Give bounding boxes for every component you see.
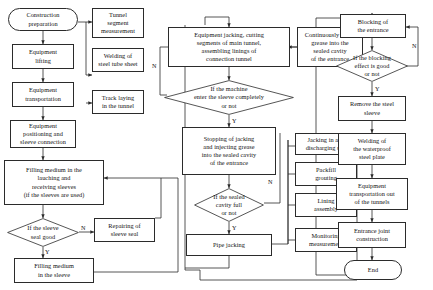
node-label: End	[368, 266, 378, 274]
node-pipe-jacking[interactable]: Pipe jacking	[186, 234, 272, 256]
node-label: Remove the steel sleeve	[350, 100, 394, 116]
node-label: If the machine enter the sleeve complete…	[194, 85, 264, 109]
node-equipment-positioning[interactable]: Equipment positioning and sleeve connect…	[10, 120, 76, 148]
edge-label-blocking-no: N	[412, 42, 416, 49]
node-filling-medium-launching[interactable]: Filling medium in the lauching and recei…	[4, 160, 104, 205]
node-label: Construction preparation	[26, 11, 59, 27]
edge-label-sleeve-seal-no: N	[81, 224, 85, 231]
node-tunnel-segment-measurement[interactable]: Tunnel segment measurement	[92, 8, 144, 38]
edge-label-sleeve-seal-yes: Y	[45, 248, 49, 255]
node-repairing-sleeve-seal[interactable]: Repairing of sleeve seal	[94, 218, 155, 242]
node-entrance-joint-construction[interactable]: Entrance joint construction	[338, 222, 406, 248]
node-label: Packfill grouting	[315, 166, 337, 182]
node-label: Welding of steel tube sheet	[98, 52, 137, 68]
node-filling-medium-in-sleeve[interactable]: Filling medium in the sleeve	[14, 258, 94, 283]
node-blocking-of-entrance[interactable]: Blocking of the entrance	[340, 14, 406, 38]
node-label: Blocking of the entrance	[357, 18, 388, 34]
node-label: If the sealed cavity full or not	[213, 193, 244, 217]
node-label: Filling medium in the lauching and recei…	[24, 166, 85, 198]
node-label: Pipe jacking	[213, 241, 245, 249]
node-end[interactable]: End	[344, 260, 402, 280]
edge-label-machine-enter-yes: Y	[232, 117, 236, 124]
node-equipment-transportation[interactable]: Equipment transportation	[12, 82, 74, 107]
node-label: Equipment transportation	[25, 86, 61, 102]
node-label: Entrance joint construction	[354, 227, 390, 243]
node-label: Lining assembly	[314, 197, 338, 213]
node-label: Equipment positioning and sleeve connect…	[20, 122, 66, 146]
node-stopping-of-jacking[interactable]: Stopping of jacking and injecting grease…	[182, 127, 276, 175]
edge-label-machine-enter-no: N	[152, 62, 156, 69]
node-construction-preparation[interactable]: Construction preparation	[8, 8, 78, 31]
node-label: Filling medium in the sleeve	[34, 262, 74, 278]
edge-label-sealed-cavity-yes: Y	[232, 224, 236, 231]
edge-label-sealed-cavity-no: N	[268, 178, 272, 185]
node-welding-steel-tube-sheet[interactable]: Welding of steel tube sheet	[92, 48, 144, 72]
node-equipment-transport-out[interactable]: Equipment transportation out of the tunn…	[336, 178, 408, 210]
node-remove-steel-sleeve[interactable]: Remove the steel sleeve	[338, 96, 406, 121]
node-if-machine-enter-sleeve[interactable]: If the machine enter the sleeve complete…	[164, 80, 294, 115]
node-track-laying-in-tunnel[interactable]: Track laying in the tunnel	[92, 90, 144, 114]
node-label: Tunnel segment measurement	[101, 11, 135, 35]
node-label: Equipment transportation out of the tunn…	[349, 182, 395, 206]
node-label: Repairing of sleeve seal	[108, 222, 140, 238]
node-if-sleeve-seal-good[interactable]: If the sleeve seal good	[7, 218, 79, 247]
flowchart-canvas: Construction preparation Tunnel segment …	[0, 0, 433, 290]
node-label: Track laying in the tunnel	[102, 94, 134, 110]
node-equipment-jacking-cutting[interactable]: Equipment jacking, cutting segments of m…	[168, 27, 290, 67]
node-equipment-lifting[interactable]: Equipment lifting	[12, 44, 74, 69]
node-label: Equipment jacking, cutting segments of m…	[194, 31, 264, 63]
node-label: Equipment lifting	[29, 48, 57, 64]
node-label: Welding of the waterproof steel plate	[353, 137, 391, 161]
node-label: Stopping of jacking and injecting grease…	[202, 135, 256, 167]
node-label: If the blocking effect is good or not	[353, 54, 391, 78]
node-if-sealed-cavity-full[interactable]: If the sealed cavity full or not	[194, 188, 264, 222]
node-label: If the sleeve seal good	[27, 224, 58, 240]
node-welding-waterproof-plate[interactable]: Welding of the waterproof steel plate	[338, 133, 406, 165]
edge-label-blocking-yes: Y	[375, 85, 379, 92]
node-if-blocking-effect-good[interactable]: If the blocking effect is good or not	[336, 50, 408, 82]
